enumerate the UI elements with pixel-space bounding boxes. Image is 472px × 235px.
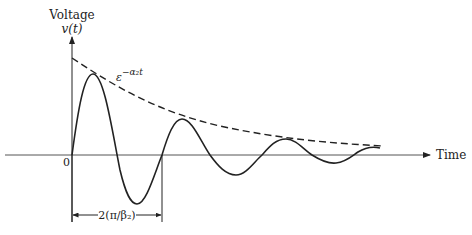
envelope-label: ε−α₂t — [116, 67, 143, 84]
y-axis-label: Voltage — [48, 8, 94, 22]
origin-label: 0 — [63, 156, 70, 169]
damped-oscillation-diagram: Voltage v(t) Time 0 ε−α₂t 2(π/β₂) — [0, 0, 472, 235]
y-axis-sublabel: v(t) — [62, 22, 83, 36]
period-label: 2(π/β₂) — [98, 209, 135, 222]
x-axis-label: Time — [436, 148, 466, 162]
damped-sine-curve — [72, 74, 380, 204]
